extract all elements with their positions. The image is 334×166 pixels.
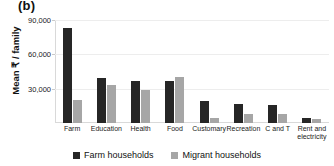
x-tick-label: Rent and electricity xyxy=(295,125,329,141)
x-tick-label: Farm xyxy=(55,125,89,133)
bar-group xyxy=(226,20,260,123)
legend-swatch-icon xyxy=(171,152,178,159)
bar-group xyxy=(89,20,123,123)
bar xyxy=(131,81,140,123)
y-axis-title: Mean ₹ / family xyxy=(10,19,21,103)
bar xyxy=(63,28,72,123)
bar xyxy=(312,119,321,123)
chart-legend: Farm householdsMigrant households xyxy=(0,150,334,160)
bar xyxy=(165,81,174,123)
y-tick-label: 60,000 xyxy=(28,50,51,59)
bar xyxy=(107,85,116,123)
panel-label: (b) xyxy=(18,0,35,13)
x-tick-label: Customary xyxy=(192,125,226,133)
legend-label: Migrant households xyxy=(182,150,261,160)
legend-item: Migrant households xyxy=(171,150,261,160)
legend-item: Farm households xyxy=(73,150,154,160)
bar xyxy=(73,100,82,123)
y-tick-label: 30,000 xyxy=(28,84,51,93)
bar-group xyxy=(55,20,89,123)
bar xyxy=(210,118,219,123)
bar-group xyxy=(261,20,295,123)
bar xyxy=(268,105,277,123)
bar xyxy=(302,118,311,123)
bar xyxy=(278,114,287,123)
bar xyxy=(175,77,184,123)
x-tick-label: Recreation xyxy=(226,125,260,133)
x-tick-label: Health xyxy=(124,125,158,133)
bar xyxy=(200,101,209,123)
y-tick-label: 90,000 xyxy=(28,16,51,25)
legend-label: Farm households xyxy=(84,150,154,160)
bar xyxy=(97,78,106,123)
bar-group xyxy=(158,20,192,123)
plot-area: 30,00060,00090,000 FarmEducationHealthFo… xyxy=(55,20,329,123)
legend-swatch-icon xyxy=(73,152,80,159)
x-tick-label: Food xyxy=(158,125,192,133)
bar-chart-figure: (b) Mean ₹ / family 30,00060,00090,000 F… xyxy=(0,0,334,166)
bar-group xyxy=(124,20,158,123)
x-tick-label: C and T xyxy=(261,125,295,133)
x-tick-label: Education xyxy=(89,125,123,133)
bar xyxy=(234,104,243,123)
bar-group xyxy=(192,20,226,123)
bar xyxy=(141,90,150,123)
bar xyxy=(244,114,253,123)
bar-group xyxy=(295,20,329,123)
